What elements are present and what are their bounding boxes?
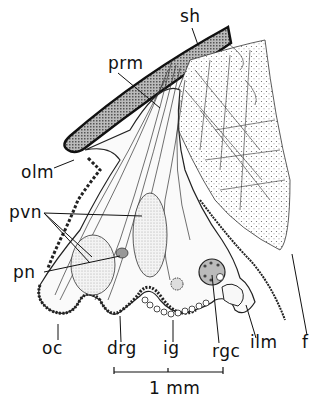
label-drg: drg bbox=[107, 340, 137, 357]
label-prm: prm bbox=[108, 55, 144, 72]
label-oc: oc bbox=[42, 340, 63, 357]
label-rgc: rgc bbox=[212, 343, 240, 360]
label-f: f bbox=[302, 334, 309, 351]
label-ig: ig bbox=[163, 340, 180, 357]
label-sh: sh bbox=[180, 8, 201, 25]
pallial-vein-right bbox=[133, 193, 167, 277]
inner-gland-cell bbox=[171, 278, 183, 290]
label-ilm: ilm bbox=[250, 334, 278, 351]
label-pn: pn bbox=[13, 264, 36, 281]
scale-bar bbox=[114, 367, 223, 374]
label-olm: olm bbox=[21, 164, 54, 181]
label-pvn: pvn bbox=[9, 204, 42, 221]
scale-bar-label: 1 mm bbox=[149, 380, 200, 397]
